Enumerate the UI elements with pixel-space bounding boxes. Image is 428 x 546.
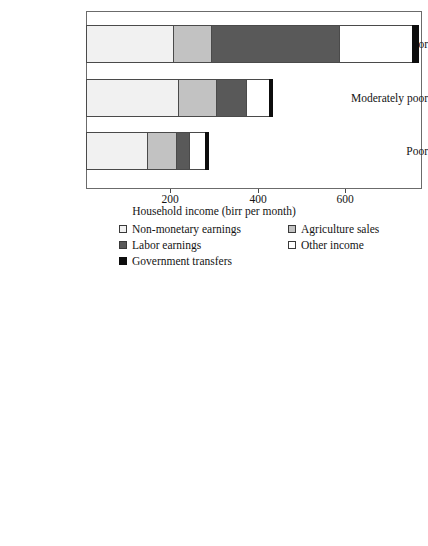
- segment-labor-earnings: [176, 132, 190, 170]
- legend-item-agriculture-sales: Agriculture sales: [288, 222, 379, 236]
- segment-non-monetary-earnings: [86, 79, 179, 117]
- segment-non-monetary-earnings: [86, 25, 174, 63]
- bar-moderately-poor-income: [86, 79, 273, 117]
- segment-government-transfers: [269, 79, 273, 117]
- legend-swatch-government-transfers: [119, 257, 127, 265]
- legend-label-government-transfers: Government transfers: [132, 255, 232, 268]
- legend-label-non-monetary-earnings: Non-monetary earnings: [132, 223, 241, 236]
- legend-household-income: Non-monetary earnings Labor earnings Gov…: [0, 222, 428, 270]
- segment-government-transfers: [205, 132, 209, 170]
- segment-labor-earnings: [216, 79, 247, 117]
- legend-column-right: Agriculture sales Other income: [288, 222, 379, 254]
- segment-other-income: [339, 25, 413, 63]
- segment-labor-earnings: [211, 25, 340, 63]
- bar-poor-income: [86, 132, 209, 170]
- segment-agriculture-sales: [147, 132, 177, 170]
- legend-column-left: Non-monetary earnings Labor earnings Gov…: [119, 222, 241, 270]
- legend-item-non-monetary-earnings: Non-monetary earnings: [119, 222, 241, 236]
- panel-household-income: Non-poor Moderately poor Poor 200 400 60…: [0, 0, 428, 273]
- legend-label-agriculture-sales: Agriculture sales: [301, 223, 379, 236]
- legend-item-government-transfers: Government transfers: [119, 254, 241, 268]
- segment-other-income: [246, 79, 270, 117]
- segment-government-transfers: [412, 25, 419, 63]
- legend-swatch-labor-earnings: [119, 241, 127, 249]
- legend-swatch-non-monetary-earnings: [119, 225, 127, 233]
- segment-agriculture-sales: [178, 79, 217, 117]
- legend-swatch-agriculture-sales: [288, 225, 296, 233]
- segment-agriculture-sales: [173, 25, 212, 63]
- legend-swatch-other-income: [288, 241, 296, 249]
- segment-other-income: [189, 132, 206, 170]
- legend-item-other-income: Other income: [288, 238, 379, 252]
- legend-item-labor-earnings: Labor earnings: [119, 238, 241, 252]
- axis-title-household-income: Household income (birr per month): [0, 205, 428, 217]
- bar-non-poor-income: [86, 25, 419, 63]
- segment-non-monetary-earnings: [86, 132, 148, 170]
- category-label-moderately-poor: Moderately poor: [346, 92, 428, 104]
- category-label-poor: Poor: [346, 145, 428, 157]
- legend-label-labor-earnings: Labor earnings: [132, 239, 201, 252]
- legend-label-other-income: Other income: [301, 239, 364, 252]
- panel-agriculture-sale-shares: Non-poor Moderately poor Poor .2 .4 .6 .…: [0, 273, 428, 546]
